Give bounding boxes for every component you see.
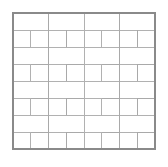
tile-rect [66, 149, 102, 166]
tile-rect [84, 115, 120, 132]
tile-rect [155, 47, 168, 81]
tile-rect [84, 47, 120, 64]
tile-rect [49, 13, 85, 30]
tile-rect [13, 81, 49, 98]
tile-rect [13, 47, 49, 64]
tile-rect [84, 13, 120, 30]
tile-rect [155, 13, 168, 47]
pinwheel-tiling-figure [0, 0, 168, 167]
tile-rect [13, 115, 49, 132]
tile-rect [49, 81, 85, 98]
tile-rect [31, 149, 67, 166]
tile-rect [120, 81, 156, 98]
tile-rect [49, 115, 85, 132]
tile-rect [102, 149, 138, 166]
tile-rect [84, 81, 120, 98]
tile-rect [155, 115, 168, 149]
figure-root [0, 0, 168, 167]
tile-rect [49, 47, 85, 64]
tiles-layer [13, 13, 168, 166]
tile-rect [155, 81, 168, 115]
tile-rect [120, 47, 156, 64]
tile-rect [13, 13, 49, 30]
tile-rect [120, 115, 156, 132]
tile-rect [120, 13, 156, 30]
tile-rect [137, 149, 168, 166]
